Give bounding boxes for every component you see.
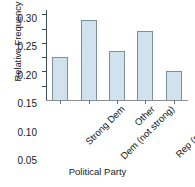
y-tick-label: 0.30 xyxy=(18,14,37,24)
bar xyxy=(109,51,125,100)
bar xyxy=(52,57,68,100)
y-tick-mark: 0.20 xyxy=(42,43,46,44)
x-tick-label: Rep (not strong) xyxy=(174,104,195,159)
y-tick-label: 0.25 xyxy=(18,42,37,52)
relative-frequency-bar-chart: Relative Frequency 0.050.100.150.200.250… xyxy=(0,0,195,187)
x-axis-title: Political Party xyxy=(0,166,195,177)
y-tick-mark: 0.10 xyxy=(42,71,46,72)
y-tick-mark: 0.25 xyxy=(42,29,46,30)
bar xyxy=(81,20,97,100)
y-axis-line xyxy=(46,10,47,100)
y-tick-mark: 0.15 xyxy=(42,57,46,58)
y-tick-label: 0.05 xyxy=(18,156,37,166)
bar xyxy=(166,71,182,100)
x-axis-tick-labels: Strong DemDem (not strong)OtherRep (not … xyxy=(0,104,195,156)
x-tick-label: Strong Dem xyxy=(84,104,127,147)
y-tick-label: 0.20 xyxy=(18,71,37,81)
bar xyxy=(137,31,153,100)
plot-area: 0.050.100.150.200.250.30 xyxy=(46,10,188,100)
y-tick-mark: 0.05 xyxy=(42,86,46,87)
y-tick-mark: 0.30 xyxy=(42,14,46,15)
